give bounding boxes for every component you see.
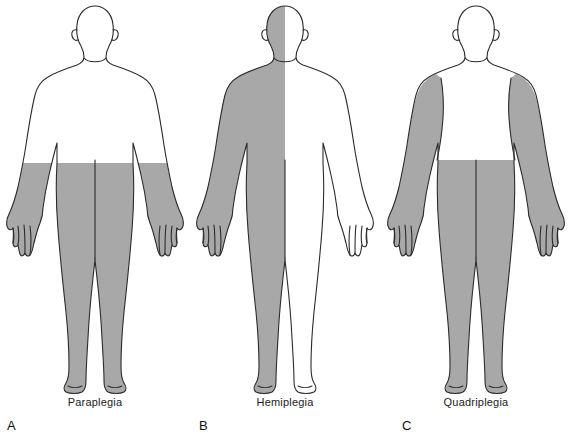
body-diagram-paraplegia bbox=[0, 0, 190, 400]
figure-panel-hemiplegia bbox=[190, 0, 380, 400]
figure-panel-quadriplegia bbox=[381, 0, 571, 400]
condition-label-quadriplegia: Quadriplegia bbox=[381, 396, 571, 408]
panel-letter-a: A bbox=[7, 418, 16, 433]
panel-letter-c: C bbox=[402, 418, 411, 433]
body-diagram-quadriplegia bbox=[381, 0, 571, 400]
body-diagram-hemiplegia bbox=[190, 0, 380, 400]
panel-letter-b: B bbox=[199, 418, 208, 433]
figure-caption-partial bbox=[0, 432, 572, 438]
condition-label-hemiplegia: Hemiplegia bbox=[190, 396, 380, 408]
condition-label-paraplegia: Paraplegia bbox=[0, 396, 190, 408]
figure-panel-paraplegia bbox=[0, 0, 190, 400]
paralysis-types-figure: Paraplegia Hemiplegia Quadriplegia A B C bbox=[0, 0, 572, 438]
